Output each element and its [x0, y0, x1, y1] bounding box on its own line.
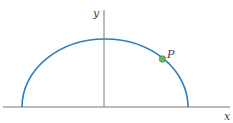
- ellipse-diagram: P y x: [0, 0, 233, 123]
- semi-ellipse-curve: [22, 39, 188, 107]
- x-axis-label: x: [224, 110, 231, 123]
- point-p: [159, 56, 166, 63]
- point-p-label: P: [166, 48, 175, 61]
- y-axis-label: y: [92, 7, 100, 20]
